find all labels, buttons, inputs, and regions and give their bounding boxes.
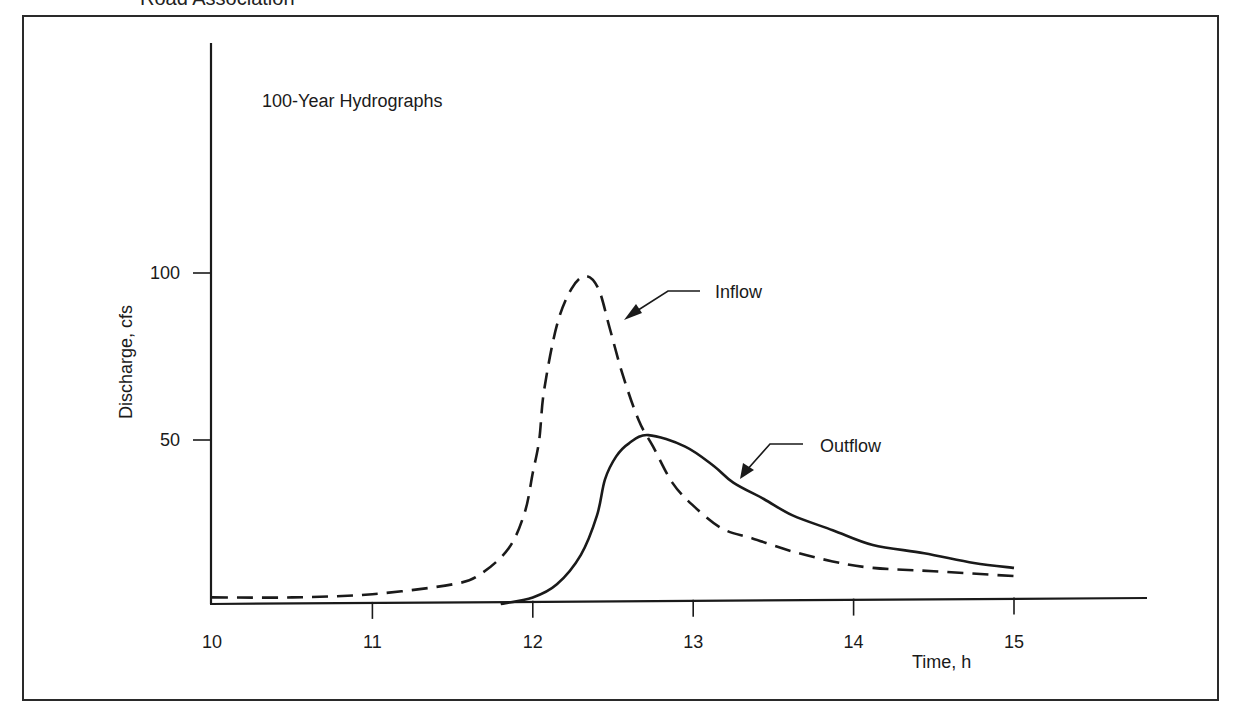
inflow-annotation: Inflow [624, 282, 763, 320]
x-tick-label: 11 [363, 632, 382, 652]
outflow-arrow-leader [746, 444, 803, 471]
axes [210, 43, 1147, 604]
x-tick-label: 15 [1004, 632, 1024, 652]
x-axis-label: Time, h [912, 652, 971, 672]
inflow-arrow-leader [632, 291, 700, 314]
hydrograph-chart: 101112131415 50100 100-Year Hydrographs … [0, 0, 1238, 710]
x-tick-label: 12 [523, 632, 543, 652]
y-ticks: 50100 [150, 263, 211, 450]
outflow-label: Outflow [820, 436, 882, 456]
outflow-line [501, 435, 1014, 604]
x-axis [210, 598, 1147, 604]
inflow-label: Inflow [715, 282, 763, 302]
outflow-annotation: Outflow [740, 436, 882, 479]
inflow-arrowhead-icon [624, 304, 642, 320]
x-tick-label: 14 [844, 632, 864, 652]
x-tick-label: 13 [683, 632, 703, 652]
chart-title: 100-Year Hydrographs [262, 91, 442, 111]
y-tick-label: 100 [150, 263, 180, 283]
x-ticks: 101112131415 [202, 598, 1024, 653]
y-axis-label: Discharge, cfs [116, 305, 136, 419]
y-tick-label: 50 [160, 430, 180, 450]
x-tick-label: 10 [202, 632, 222, 652]
